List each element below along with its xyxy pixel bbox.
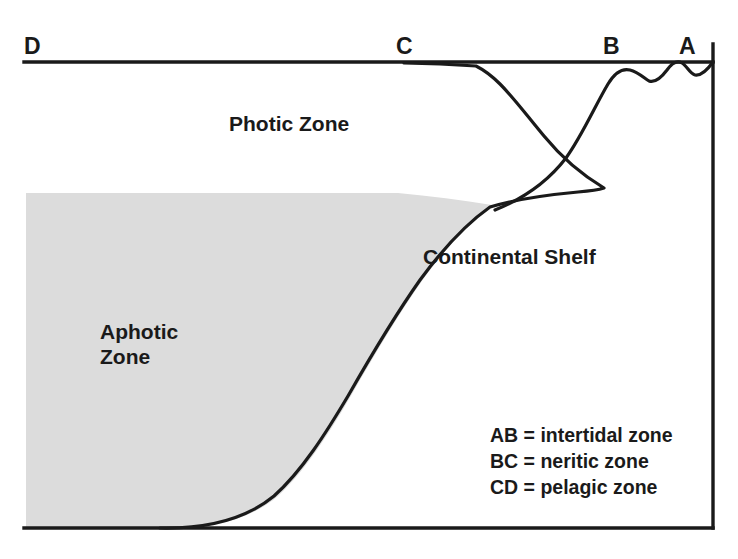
point-label-b: B xyxy=(603,33,620,60)
aphotic-zone-fill xyxy=(26,193,492,528)
point-label-d: D xyxy=(24,33,41,60)
aphotic-zone-label-line2: Zone xyxy=(100,345,150,370)
continental-shelf-label: Continental Shelf xyxy=(423,245,596,270)
legend-item-intertidal: AB = intertidal zone xyxy=(490,424,673,447)
zone-legend: AB = intertidal zone BC = neritic zone C… xyxy=(490,424,673,502)
photic-zone-label: Photic Zone xyxy=(229,112,349,137)
point-label-c: C xyxy=(396,33,413,60)
ocean-zones-diagram: D C B A Photic Zone Continental Shelf Ap… xyxy=(0,0,738,559)
aphotic-zone-label-line1: Aphotic xyxy=(100,320,178,345)
legend-item-neritic: BC = neritic zone xyxy=(490,450,673,473)
point-label-a: A xyxy=(679,33,696,60)
legend-item-pelagic: CD = pelagic zone xyxy=(490,476,673,499)
